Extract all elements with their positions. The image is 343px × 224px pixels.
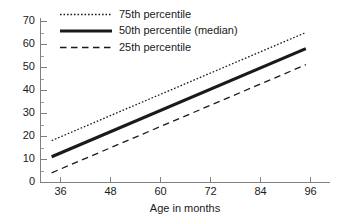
x-tick-label: 48 bbox=[104, 185, 116, 197]
y-tick-label: 10 bbox=[23, 152, 35, 164]
x-axis-title: Age in months bbox=[150, 202, 221, 214]
y-tick-label: 0 bbox=[29, 175, 35, 187]
chart-canvas: 0 10 20 30 40 50 60 70 36 48 60 72 84 96… bbox=[0, 0, 343, 224]
y-tick-label: 70 bbox=[23, 14, 35, 26]
legend-label-p25: 25th percentile bbox=[119, 41, 191, 53]
x-tick-label: 84 bbox=[254, 185, 266, 197]
x-tick-label: 96 bbox=[304, 185, 316, 197]
y-tick-label: 20 bbox=[23, 129, 35, 141]
x-tick-label: 36 bbox=[54, 185, 66, 197]
legend-label-p50: 50th percentile (median) bbox=[119, 24, 238, 36]
growth-percentile-chart: 0 10 20 30 40 50 60 70 36 48 60 72 84 96… bbox=[0, 0, 343, 224]
x-tick-label: 60 bbox=[154, 185, 166, 197]
x-tick-label: 72 bbox=[204, 185, 216, 197]
legend-label-p75: 75th percentile bbox=[119, 8, 191, 20]
y-tick-label: 50 bbox=[23, 60, 35, 72]
y-tick-label: 60 bbox=[23, 37, 35, 49]
y-tick-label: 30 bbox=[23, 106, 35, 118]
y-tick-label: 40 bbox=[23, 83, 35, 95]
